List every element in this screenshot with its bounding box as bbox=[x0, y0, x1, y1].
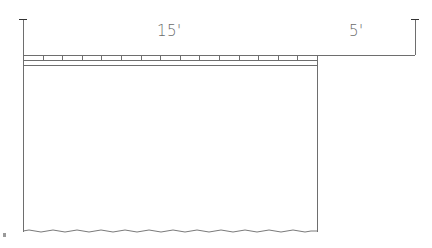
dimension-label-15ft: 15' bbox=[157, 24, 182, 39]
dimension-label-5ft: 5' bbox=[349, 24, 364, 39]
corner-mark bbox=[3, 233, 6, 237]
elevation-drawing bbox=[0, 0, 432, 248]
tick-marks bbox=[44, 55, 298, 60]
break-line bbox=[23, 230, 317, 232]
